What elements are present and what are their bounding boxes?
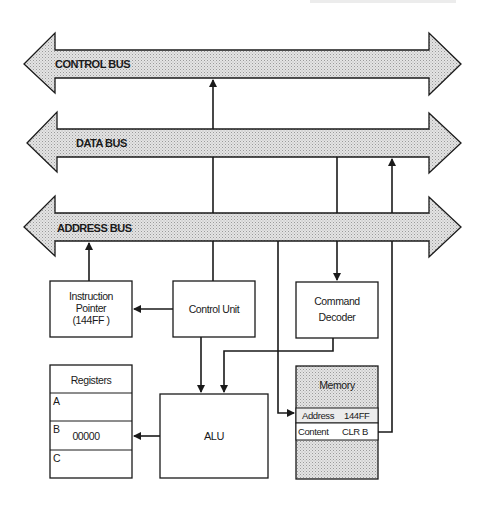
instruction-pointer-block: Instruction Pointer (144FF ): [50, 281, 132, 337]
registers-block: Registers A B 00000 C: [50, 365, 132, 478]
cpu-diagram: CONTROL BUS DATA BUS ADDRESS BUS: [0, 0, 487, 506]
bus-to-memory-address-arrow: [278, 241, 294, 413]
memory-content-value: CLR B: [342, 426, 368, 437]
control-bus-label: CONTROL BUS: [55, 58, 130, 70]
memory-content-link: [378, 241, 392, 432]
ip-line2: Pointer: [76, 302, 107, 314]
memory-content-label: Content: [298, 426, 329, 437]
control-unit-label: Control Unit: [189, 303, 240, 315]
command-decoder-line2: Decoder: [319, 311, 357, 323]
control-bus: CONTROL BUS: [24, 33, 461, 95]
scan-artifact: [310, 0, 456, 3]
address-bus-label: ADDRESS BUS: [57, 222, 132, 234]
register-b-value: 00000: [72, 430, 100, 442]
register-a-name: A: [53, 395, 60, 407]
command-decoder-block: Command Decoder: [296, 282, 378, 338]
register-c-name: C: [53, 452, 61, 464]
registers-title: Registers: [71, 374, 112, 386]
memory-address-label: Address: [302, 410, 335, 421]
memory-address-value: 144FF: [344, 410, 370, 421]
memory-title: Memory: [319, 379, 356, 391]
ip-line1: Instruction: [69, 290, 114, 302]
control-unit-block: Control Unit: [173, 281, 255, 337]
register-b-name: B: [53, 423, 60, 435]
alu-block: ALU: [160, 394, 268, 478]
data-bus: DATA BUS: [27, 112, 461, 173]
memory-block: Memory Address 144FF Content CLR B: [296, 366, 378, 479]
command-decoder-line1: Command: [314, 295, 360, 307]
data-bus-label: DATA BUS: [76, 137, 127, 149]
ip-line3: (144FF ): [72, 314, 109, 326]
alu-label: ALU: [204, 430, 225, 442]
